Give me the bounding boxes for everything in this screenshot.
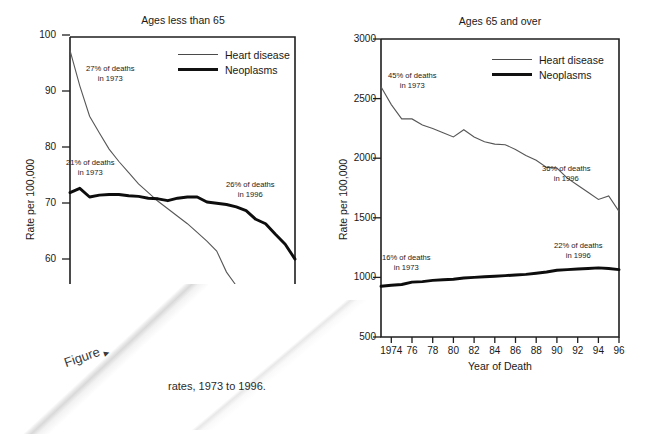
- x-tick-label-right-88: 88: [526, 345, 546, 356]
- legend-swatch-neoplasms: [492, 73, 532, 76]
- x-tick-label-right-80: 80: [443, 345, 463, 356]
- annotation-line2: in 1973: [86, 74, 135, 84]
- annotation-line2: in 1996: [542, 174, 591, 184]
- x-axis-label-right: Year of Death: [430, 360, 570, 372]
- legend-label-neoplasms: Neoplasms: [539, 69, 592, 81]
- annotation-left-heart-1996: 20% of deaths in 1996: [207, 309, 256, 330]
- annotation-line2: in 1973: [382, 263, 431, 273]
- annotation-line1: 16% of deaths: [382, 253, 431, 263]
- y-ticks-left: [62, 35, 70, 259]
- annotation-right-neoplasm-1996: 22% of deaths in 1996: [554, 241, 603, 262]
- x-tick-label-left-90: 90: [216, 343, 236, 354]
- x-tick-label-left-92: 92: [236, 343, 256, 354]
- annotation-line1: 36% of deaths: [542, 164, 591, 174]
- x-tick-label-left-80: 80: [118, 343, 138, 354]
- y-ticks-right: [373, 39, 381, 337]
- figure-caption: rates, 1973 to 1996.: [168, 380, 266, 392]
- legend-swatch-heart-disease: [492, 59, 532, 60]
- annotation-line1: 26% of deaths: [226, 180, 275, 190]
- annotation-line1: 22% of deaths: [554, 241, 603, 251]
- x-tick-label-left-88: 88: [197, 343, 217, 354]
- x-tick-label-right-90: 90: [547, 345, 567, 356]
- legend-item-neoplasms: Neoplasms: [492, 67, 604, 82]
- annotation-line1: 45% of deaths: [388, 71, 437, 81]
- chart-panel-ages-less-than-65: Ages less than 65 Rate per 100,000 60 70…: [0, 0, 320, 414]
- annotation-line2: in 1996: [226, 190, 275, 200]
- legend-swatch-neoplasms: [178, 68, 218, 71]
- series-line-heart-disease-right: [381, 87, 619, 212]
- x-tick-label-left-82: 82: [138, 343, 158, 354]
- annotation-line2: in 1973: [388, 81, 437, 91]
- x-tick-label-right-82: 82: [464, 345, 484, 356]
- annotation-line2: in 1973: [66, 168, 115, 178]
- x-tick-label-right-78: 78: [423, 345, 443, 356]
- annotation-left-heart-1973: 27% of deaths in 1973: [86, 64, 135, 85]
- annotation-line2: in 1996: [207, 319, 256, 329]
- annotation-line2: in 1996: [554, 251, 603, 261]
- legend-label-heart-disease: Heart disease: [225, 49, 290, 61]
- x-tick-label-left-96: 96: [275, 343, 295, 354]
- x-tick-label-left-94: 94: [255, 343, 275, 354]
- legend-left: Heart disease Neoplasms: [178, 47, 290, 77]
- annotation-right-neoplasm-1973: 16% of deaths in 1973: [382, 253, 431, 274]
- annotation-line1: 21% of deaths: [66, 158, 115, 168]
- legend-item-heart-disease: Heart disease: [178, 47, 290, 62]
- x-axis-label-left: Year of Death: [110, 357, 250, 369]
- legend-label-heart-disease: Heart disease: [539, 54, 604, 66]
- x-ticks-left: [89, 335, 285, 341]
- annotation-line1: 20% of deaths: [207, 309, 256, 319]
- annotation-right-heart-1973: 45% of deaths in 1973: [388, 71, 437, 92]
- x-tick-label-right-94: 94: [588, 345, 608, 356]
- chart-panel-ages-65-and-over: Ages 65 and over Rate per 100,000 500 10…: [320, 0, 653, 414]
- annotation-left-neoplasm-1996: 26% of deaths in 1996: [226, 180, 275, 201]
- x-tick-label-right-92: 92: [568, 345, 588, 356]
- x-tick-label-left-86: 86: [177, 343, 197, 354]
- x-tick-label-right-76: 76: [402, 345, 422, 356]
- x-tick-label-left-84: 84: [157, 343, 177, 354]
- annotation-left-neoplasm-1973: 21% of deaths in 1973: [66, 158, 115, 179]
- annotation-line1: 27% of deaths: [86, 64, 135, 74]
- x-tick-label-right-96: 96: [609, 345, 629, 356]
- x-tick-label-right-84: 84: [485, 345, 505, 356]
- legend-right: Heart disease Neoplasms: [492, 52, 604, 82]
- legend-label-neoplasms: Neoplasms: [225, 64, 278, 76]
- legend-swatch-heart-disease: [178, 54, 218, 55]
- x-ticks-right: [391, 337, 619, 343]
- legend-item-neoplasms: Neoplasms: [178, 62, 290, 77]
- legend-item-heart-disease: Heart disease: [492, 52, 604, 67]
- x-tick-label-right-86: 86: [506, 345, 526, 356]
- annotation-right-heart-1996: 36% of deaths in 1996: [542, 164, 591, 185]
